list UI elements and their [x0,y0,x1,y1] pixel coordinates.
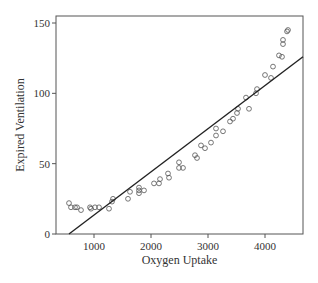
data-point [177,160,182,165]
data-point [228,119,233,124]
data-point [277,53,282,58]
data-point [247,106,252,111]
scatter-chart: 050100150 1000200030004000 Oxygen Uptake… [0,0,318,283]
data-point [107,206,112,211]
data-point [158,177,163,182]
data-point [128,189,133,194]
data-point [209,140,214,145]
data-point [214,133,219,138]
regression-line [69,57,303,234]
y-axis: 050100150 [34,17,57,240]
data-point [263,73,268,78]
x-tick-label: 1000 [83,240,106,252]
y-tick-label: 0 [45,228,51,240]
y-tick-label: 100 [34,87,51,99]
x-tick-label: 4000 [254,240,277,252]
y-tick-label: 50 [39,158,51,170]
data-point [126,196,131,201]
x-axis-title: Oxygen Uptake [142,253,218,267]
data-point [152,181,157,186]
data-point [214,126,219,131]
data-point [221,129,226,134]
data-point [79,208,84,213]
data-point [280,54,285,59]
data-point [286,28,291,33]
y-axis-title: Expired Ventilation [13,78,27,171]
plot-frame [56,16,303,234]
data-point [142,188,147,193]
data-point [203,146,208,151]
data-points [67,28,291,213]
x-tick-label: 3000 [197,240,220,252]
y-tick-label: 150 [34,17,51,29]
x-tick-label: 2000 [140,240,163,252]
x-axis: 1000200030004000 [83,234,277,252]
data-point [231,116,236,121]
data-point [271,64,276,69]
